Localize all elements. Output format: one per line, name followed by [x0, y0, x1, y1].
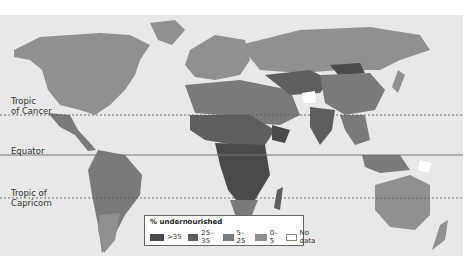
region-mexico-central-america	[48, 113, 96, 151]
tropic-of-cancer-label: Tropic of Cancer	[11, 96, 52, 116]
legend-label-5-25: 5–25	[237, 229, 250, 245]
region-no-data-png	[418, 160, 432, 173]
map-legend: % undernourished >35 25–35 5–25 0–5 No d…	[144, 215, 304, 246]
legend-item-no-data: No data	[286, 229, 319, 245]
region-madagascar	[274, 187, 283, 210]
region-indonesia	[362, 155, 410, 173]
legend-title: % undernourished	[150, 218, 298, 226]
legend-item-25-35: 25–35	[188, 229, 217, 245]
legend-swatch-5-25	[223, 234, 233, 241]
legend-swatch-0-5	[255, 234, 267, 241]
legend-items: >35 25–35 5–25 0–5 No data	[150, 229, 298, 245]
region-new-zealand	[432, 220, 448, 250]
tropic-of-capricorn-label-line-2: Capricorn	[11, 198, 52, 208]
tropic-of-cancer-label-line-1: Tropic	[11, 96, 52, 106]
region-no-data-afghanistan	[302, 91, 316, 103]
equator-label-line-1: Equator	[11, 146, 44, 156]
legend-label-25-35: 25–35	[201, 229, 217, 245]
legend-swatch-25-35	[188, 234, 198, 241]
region-southeast-asia	[340, 115, 370, 145]
legend-item-gt35: >35	[150, 233, 182, 241]
legend-swatch-no-data	[286, 234, 296, 241]
legend-item-0-5: 0–5	[255, 229, 280, 245]
tropic-of-capricorn-label: Tropic of Capricorn	[11, 188, 52, 208]
legend-swatch-gt35	[150, 234, 164, 241]
region-china	[320, 73, 385, 115]
tropic-of-cancer-label-line-2: of Cancer	[11, 106, 52, 116]
region-japan	[392, 70, 405, 93]
region-australia	[375, 175, 430, 230]
region-horn-of-africa	[272, 125, 290, 143]
region-europe	[185, 35, 250, 80]
tropic-of-capricorn-label-line-1: Tropic of	[11, 188, 52, 198]
legend-label-gt35: >35	[167, 233, 182, 241]
legend-label-no-data: No data	[300, 229, 319, 245]
region-central-africa	[215, 143, 270, 205]
legend-item-5-25: 5–25	[223, 229, 249, 245]
region-india	[310, 107, 335, 145]
region-greenland	[150, 20, 185, 45]
equator-label: Equator	[11, 146, 44, 156]
legend-label-0-5: 0–5	[270, 229, 280, 245]
